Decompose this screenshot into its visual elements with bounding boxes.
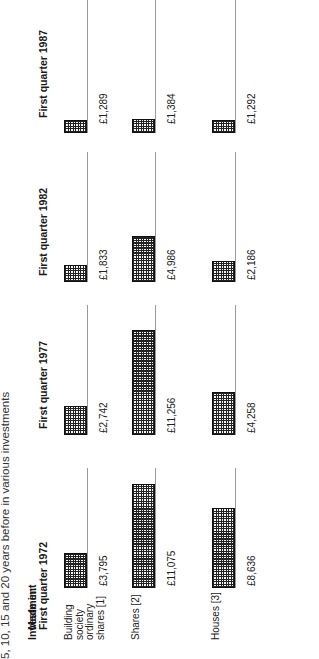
bar-1972-shares xyxy=(132,484,155,588)
row-label-houses: Houses [3] xyxy=(211,592,222,640)
value-1977-building-society: £2,742 xyxy=(98,402,109,433)
bar-1982-houses xyxy=(212,261,235,282)
bar-1982-building-society xyxy=(64,265,87,282)
baseline xyxy=(87,0,88,133)
period-header-1987: First quarter 1987 xyxy=(38,30,49,118)
row-label-line: Building xyxy=(64,596,75,640)
baseline xyxy=(155,305,156,435)
baseline xyxy=(87,152,88,282)
chart-title: 5, 10, 15 and 20 years before in various… xyxy=(0,392,11,659)
row-label-shares: Shares [2] xyxy=(131,594,142,640)
value-1987-building-society: £1,289 xyxy=(98,93,109,124)
row-label-building-society: Building society ordinary shares [1] xyxy=(64,596,106,640)
period-header-1977: First quarter 1977 xyxy=(38,341,49,429)
bar-1972-building-society xyxy=(64,553,87,588)
row-label-line: shares [1] xyxy=(96,596,107,640)
baseline xyxy=(235,468,236,588)
baseline xyxy=(235,305,236,435)
value-1972-houses: £8,636 xyxy=(246,555,257,586)
period-header-1982: First quarter 1982 xyxy=(38,188,49,276)
bar-1982-shares xyxy=(132,236,155,282)
bar-1987-shares xyxy=(132,119,155,133)
baseline xyxy=(235,152,236,282)
value-1982-building-society: £1,833 xyxy=(98,249,109,280)
row-label-line: ordinary xyxy=(85,596,96,640)
value-1982-houses: £2,186 xyxy=(246,249,257,280)
baseline xyxy=(155,468,156,588)
baseline xyxy=(155,152,156,282)
baseline xyxy=(87,468,88,588)
value-1972-shares: £11,075 xyxy=(166,551,177,586)
baseline xyxy=(235,0,236,133)
value-1977-shares: £11,256 xyxy=(166,398,177,433)
baseline xyxy=(155,0,156,133)
bar-1972-houses xyxy=(212,508,235,588)
value-1987-shares: £1,384 xyxy=(166,93,177,124)
value-1987-houses: £1,292 xyxy=(246,93,257,124)
period-header-1972: First quarter 1972 xyxy=(38,542,49,630)
bar-1987-houses xyxy=(212,120,235,133)
baseline xyxy=(87,305,88,435)
bar-1987-building-society xyxy=(64,120,87,133)
value-1982-shares: £4,986 xyxy=(166,249,177,280)
chart-canvas: 5, 10, 15 and 20 years before in various… xyxy=(0,0,319,659)
value-1972-building-society: £3,795 xyxy=(98,555,109,586)
value-1977-houses: £4,258 xyxy=(246,402,257,433)
bar-1977-shares xyxy=(132,330,155,435)
bar-1977-building-society xyxy=(64,406,87,435)
bar-1977-houses xyxy=(212,392,235,435)
